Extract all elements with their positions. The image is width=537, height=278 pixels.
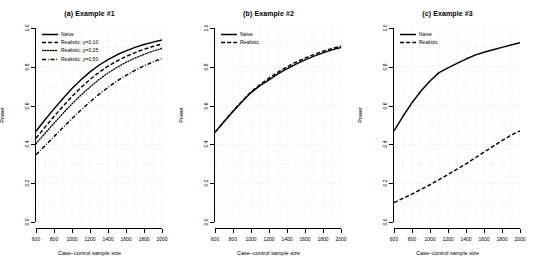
x-tick-c-5 <box>484 229 485 233</box>
x-tick-b-1 <box>233 229 234 233</box>
legend-label-a-2: Realistic: ρ=0.25 <box>61 47 98 54</box>
y-tick-label-c-0: 0.0 <box>382 217 388 227</box>
y-tick-b-5 <box>210 28 214 29</box>
legend-c: NaiveRealistic <box>400 31 438 46</box>
y-tick-label-a-3: 0.6 <box>24 101 30 111</box>
x-tick-label-b-7: 2000 <box>330 236 352 242</box>
plot-area-c <box>394 28 520 222</box>
legend-label-a-0: Naive <box>61 31 74 38</box>
y-axis-title-a: Power <box>0 107 5 123</box>
legend-entry-a-1: Realistic: ρ=0.10 <box>42 39 98 46</box>
x-tick-b-2 <box>251 229 252 233</box>
legend-entry-b-1: Realistic <box>221 39 259 46</box>
y-tick-label-a-1: 0.2 <box>24 178 30 188</box>
y-tick-label-b-4: 0.8 <box>203 62 209 72</box>
y-tick-c-0 <box>389 222 393 223</box>
legend-label-b-1: Realistic <box>240 39 259 46</box>
x-tick-a-0 <box>36 229 37 233</box>
x-tick-b-7 <box>341 229 342 233</box>
x-tick-b-0 <box>215 229 216 233</box>
legend-entry-c-0: Naive <box>400 31 438 38</box>
legend-label-a-1: Realistic: ρ=0.10 <box>61 39 98 46</box>
legend-label-a-3: Realistic: ρ=0.50 <box>61 56 98 63</box>
x-tick-a-4 <box>108 229 109 233</box>
x-tick-a-2 <box>72 229 73 233</box>
panel-example-2: (b) Example #2 6008001000120014001600180… <box>179 0 358 278</box>
y-tick-b-0 <box>210 222 214 223</box>
y-tick-a-5 <box>31 28 35 29</box>
y-axis-title-c: Power <box>357 107 363 123</box>
x-tick-a-3 <box>90 229 91 233</box>
y-tick-b-4 <box>210 67 214 68</box>
x-axis-title-c: Case–control sample size <box>358 250 537 256</box>
legend-key-dashed <box>221 39 237 46</box>
legend-key-solid <box>42 31 58 38</box>
x-tick-c-7 <box>520 229 521 233</box>
panel-example-3: (c) Example #3 6008001000120014001600180… <box>358 0 537 278</box>
x-tick-c-3 <box>448 229 449 233</box>
y-axis-line-b <box>214 28 215 222</box>
x-tick-b-3 <box>269 229 270 233</box>
y-tick-c-5 <box>389 28 393 29</box>
y-axis-line-a <box>35 28 36 222</box>
panel-title-c: (c) Example #3 <box>358 10 537 17</box>
power-curves-figure: (a) Example #1 6008001000120014001600180… <box>0 0 537 278</box>
y-tick-a-1 <box>31 183 35 184</box>
x-tick-label-a-7: 2000 <box>151 236 173 242</box>
legend-b: NaiveRealistic <box>221 31 259 46</box>
y-axis-line-c <box>393 28 394 222</box>
legend-label-b-0: Naive <box>240 31 253 38</box>
legend-entry-a-0: Naive <box>42 31 98 38</box>
x-tick-b-4 <box>287 229 288 233</box>
legend-key-dashed <box>400 39 416 46</box>
y-tick-c-2 <box>389 144 393 145</box>
legend-label-c-0: Naive <box>419 31 432 38</box>
plot-svg-b <box>215 28 341 222</box>
y-tick-label-a-0: 0.0 <box>24 217 30 227</box>
legend-entry-b-0: Naive <box>221 31 259 38</box>
y-tick-label-b-3: 0.6 <box>203 101 209 111</box>
legend-key-solid <box>221 31 237 38</box>
x-axis-title-a: Case–control sample size <box>0 250 179 256</box>
y-tick-label-a-5: 1.0 <box>24 23 30 33</box>
legend-label-c-1: Realistic <box>419 39 438 46</box>
y-tick-c-4 <box>389 67 393 68</box>
x-tick-a-5 <box>126 229 127 233</box>
y-tick-b-1 <box>210 183 214 184</box>
x-tick-c-2 <box>430 229 431 233</box>
x-tick-a-1 <box>54 229 55 233</box>
plot-svg-c <box>394 28 520 222</box>
y-tick-label-c-4: 0.8 <box>382 62 388 72</box>
legend-key-dashdot <box>42 56 58 63</box>
panel-example-1: (a) Example #1 6008001000120014001600180… <box>0 0 179 278</box>
legend-a: NaiveRealistic: ρ=0.10Realistic: ρ=0.25R… <box>42 31 98 63</box>
y-tick-b-2 <box>210 144 214 145</box>
y-tick-label-c-2: 0.4 <box>382 139 388 149</box>
legend-entry-c-1: Realistic <box>400 39 438 46</box>
x-tick-b-6 <box>323 229 324 233</box>
y-tick-a-4 <box>31 67 35 68</box>
y-tick-label-b-5: 1.0 <box>203 23 209 33</box>
y-axis-title-b: Power <box>178 107 184 123</box>
y-tick-label-a-4: 0.8 <box>24 62 30 72</box>
x-tick-label-c-7: 2000 <box>509 236 531 242</box>
legend-entry-a-2: Realistic: ρ=0.25 <box>42 47 98 54</box>
x-tick-b-5 <box>305 229 306 233</box>
y-tick-c-1 <box>389 183 393 184</box>
y-tick-a-2 <box>31 144 35 145</box>
panel-title-a: (a) Example #1 <box>0 10 179 17</box>
y-tick-label-a-2: 0.4 <box>24 139 30 149</box>
x-tick-c-1 <box>412 229 413 233</box>
legend-entry-a-3: Realistic: ρ=0.50 <box>42 56 98 63</box>
y-tick-c-3 <box>389 106 393 107</box>
x-tick-c-0 <box>394 229 395 233</box>
y-tick-label-c-3: 0.6 <box>382 101 388 111</box>
y-tick-a-3 <box>31 106 35 107</box>
x-axis-title-b: Case–control sample size <box>179 250 358 256</box>
y-tick-label-b-1: 0.2 <box>203 178 209 188</box>
y-tick-label-c-5: 1.0 <box>382 23 388 33</box>
x-tick-c-4 <box>466 229 467 233</box>
x-tick-a-7 <box>162 229 163 233</box>
y-tick-label-c-1: 0.2 <box>382 178 388 188</box>
x-tick-c-6 <box>502 229 503 233</box>
